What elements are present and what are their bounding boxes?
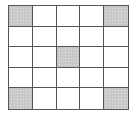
grid-cell	[80, 6, 104, 27]
grid-cell-shaded	[9, 88, 33, 109]
grid-cell	[80, 47, 104, 68]
grid-cell	[33, 27, 57, 48]
grid-cell	[80, 88, 104, 109]
grid-cell	[9, 27, 33, 48]
grid-cell	[33, 47, 57, 68]
grid-cell	[57, 88, 81, 109]
grid-diagram	[8, 5, 129, 110]
grid-cell	[33, 88, 57, 109]
grid-cell	[80, 68, 104, 89]
grid-cell	[104, 47, 128, 68]
grid-cell	[9, 68, 33, 89]
grid-cell-shaded	[57, 47, 81, 68]
grid-cell	[57, 6, 81, 27]
grid-cell	[104, 68, 128, 89]
grid-cell-shaded	[104, 88, 128, 109]
grid-cell	[33, 6, 57, 27]
grid-cell	[104, 27, 128, 48]
grid-cell	[9, 47, 33, 68]
grid-cell	[80, 27, 104, 48]
grid-cell	[33, 68, 57, 89]
grid-cell	[57, 27, 81, 48]
grid-cell-shaded	[104, 6, 128, 27]
grid-cell-shaded	[9, 6, 33, 27]
grid-cell	[57, 68, 81, 89]
